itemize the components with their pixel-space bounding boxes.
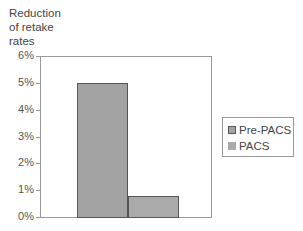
y-tick bbox=[36, 110, 40, 111]
bar-pacs bbox=[128, 196, 179, 218]
legend-item-pacs: PACS bbox=[228, 140, 269, 152]
legend-swatch-pacs bbox=[228, 142, 236, 150]
legend-label: Pre-PACS bbox=[239, 124, 291, 136]
y-axis bbox=[40, 56, 41, 218]
y-tick bbox=[36, 163, 40, 164]
legend-swatch-pre-pacs bbox=[228, 126, 236, 134]
y-tick-label: 3% bbox=[6, 130, 34, 142]
y-tick bbox=[36, 83, 40, 84]
legend-item-pre-pacs: Pre-PACS bbox=[228, 124, 291, 136]
y-axis-title-line-1: Reduction bbox=[9, 6, 61, 20]
y-axis-title: Reduction of retake rates bbox=[9, 6, 61, 48]
legend-label: PACS bbox=[239, 140, 269, 152]
legend: Pre-PACS PACS bbox=[222, 117, 294, 157]
y-tick bbox=[36, 190, 40, 191]
y-tick-label: 6% bbox=[6, 49, 34, 61]
y-tick bbox=[36, 217, 40, 218]
y-tick-label: 2% bbox=[6, 156, 34, 168]
y-tick bbox=[36, 56, 40, 57]
y-axis-title-line-2: of retake bbox=[9, 20, 61, 34]
y-tick-label: 4% bbox=[6, 103, 34, 115]
bar-pre-pacs bbox=[77, 83, 128, 218]
y-tick bbox=[36, 137, 40, 138]
y-tick-label: 1% bbox=[6, 183, 34, 195]
y-axis-title-line-3: rates bbox=[9, 34, 61, 48]
y-tick-label: 0% bbox=[6, 210, 34, 222]
y-tick-label: 5% bbox=[6, 76, 34, 88]
